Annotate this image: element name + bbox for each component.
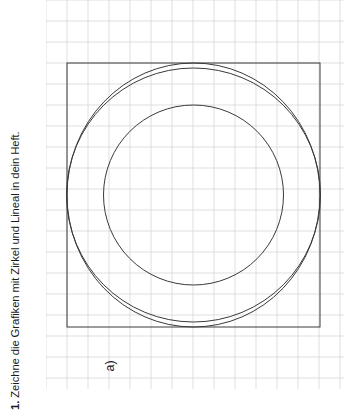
exercise-text: Zeichne die Grafiken mit Zirkel und Line… (9, 131, 21, 397)
exercise-number: 1. (9, 401, 21, 410)
geometric-figure (46, 0, 344, 389)
figure-panel: a) (46, 0, 344, 389)
worksheet-page: 1. Zeichne die Grafiken mit Zirkel und L… (0, 0, 344, 416)
sub-exercise-label: a) (99, 351, 121, 381)
exercise-instruction: 1. Zeichne die Grafiken mit Zirkel und L… (0, 0, 30, 416)
